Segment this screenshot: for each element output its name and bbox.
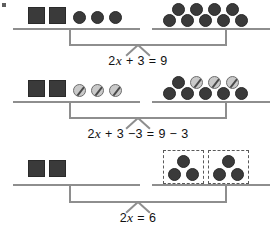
unit-circle: [163, 14, 176, 27]
balance-step-2: 2x + 3 −3 = 9 − 3: [0, 72, 276, 146]
equation-step-1: 2x + 3 = 9: [0, 53, 276, 69]
balance-step-3: 2x = 6: [0, 146, 276, 230]
right-drop-line: [225, 184, 227, 202]
unit-circle: [168, 168, 181, 181]
left-pan-bar: [13, 28, 140, 30]
unit-circle: [217, 87, 230, 100]
left-drop-line: [69, 184, 71, 202]
unit-circle: [199, 87, 212, 100]
unit-circle: [199, 14, 212, 27]
crossed-unit-circle: [73, 84, 86, 97]
right-pan-bar: [152, 28, 270, 30]
unit-circle: [73, 11, 86, 24]
x-box: [49, 7, 66, 24]
unit-circle: [222, 155, 235, 168]
crossed-unit-circle: [109, 84, 122, 97]
unit-circle: [109, 11, 122, 24]
balance-step-1: 2x + 3 = 9: [0, 0, 276, 72]
unit-circle: [217, 14, 230, 27]
unit-circle: [91, 11, 104, 24]
unit-circle: [177, 155, 190, 168]
unit-circle: [213, 168, 226, 181]
x-box: [49, 80, 66, 97]
equation-step-2-text: 2x + 3 −3 = 9 − 3: [87, 127, 188, 141]
left-drop-line: [69, 101, 71, 118]
x-box: [49, 160, 66, 177]
equation-step-1-text: 2x + 3 = 9: [108, 54, 167, 68]
x-box: [28, 7, 45, 24]
equation-step-3-text: 2x = 6: [120, 211, 157, 225]
equation-step-3: 2x = 6: [0, 210, 276, 226]
left-pan-bar: [13, 184, 140, 186]
left-pan-bar: [13, 101, 140, 103]
unit-circle: [235, 87, 248, 100]
unit-circle: [163, 87, 176, 100]
x-box: [28, 80, 45, 97]
unit-circle: [181, 14, 194, 27]
right-pan-bar: [152, 101, 270, 103]
unit-circle: [231, 168, 244, 181]
unit-circle: [186, 168, 199, 181]
unit-circle: [181, 87, 194, 100]
left-drop-line: [69, 28, 71, 45]
circle-group-box: [163, 150, 204, 184]
right-drop-line: [225, 28, 227, 45]
right-pan-bar: [152, 184, 270, 186]
x-box: [28, 160, 45, 177]
balance-diagram-figure: 2x + 3 = 9: [0, 0, 276, 230]
right-drop-line: [225, 101, 227, 118]
crossed-unit-circle: [91, 84, 104, 97]
unit-circle: [235, 14, 248, 27]
circle-group-box: [208, 150, 249, 184]
equation-step-2: 2x + 3 −3 = 9 − 3: [0, 126, 276, 142]
